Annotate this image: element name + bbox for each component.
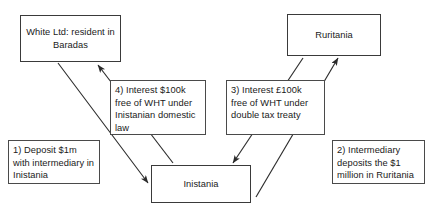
node-white-ltd-label: White Ltd: resident in Baradas — [24, 26, 117, 51]
node-ruritania-label: Ruritania — [315, 29, 353, 41]
node-inistania-label: Inistania — [183, 178, 218, 190]
note-step-3[interactable]: 3) Interest £100k free of WHT under doub… — [226, 80, 325, 135]
node-ruritania[interactable]: Ruritania — [287, 14, 381, 56]
diagram-canvas: White Ltd: resident in Baradas Ruritania… — [0, 0, 428, 210]
note-step-2[interactable]: 2) Intermediary deposits the $1 million … — [332, 140, 425, 184]
node-inistania[interactable]: Inistania — [151, 165, 251, 203]
node-white-ltd[interactable]: White Ltd: resident in Baradas — [20, 15, 121, 62]
note-step-1[interactable]: 1) Deposit $1m with intermediary in Inis… — [8, 140, 100, 184]
note-step-4[interactable]: 4) Interest $100k free of WHT under Inis… — [110, 80, 206, 135]
